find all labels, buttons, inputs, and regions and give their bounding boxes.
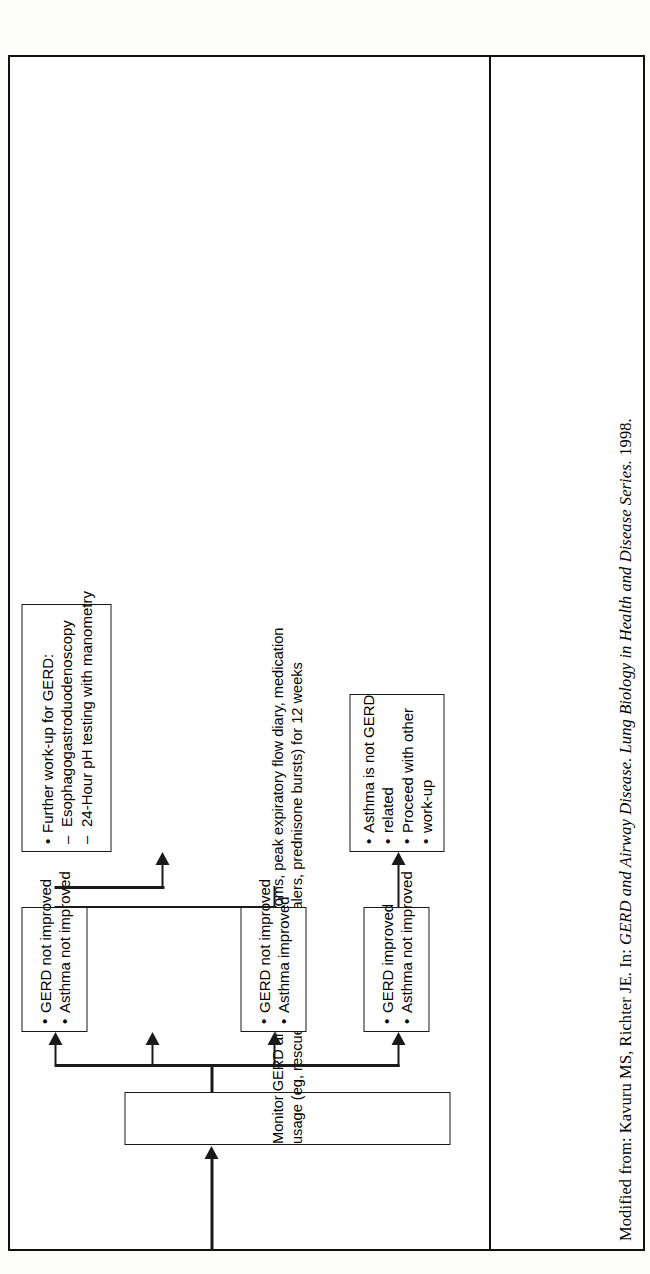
edge-merge-to-workup [161,863,164,889]
node-further-workup[interactable]: Further work-up for GERD: Esophagogastro… [21,604,111,852]
monitor-line-1: Monitor GERD and asthma by symptoms, pea… [268,1093,287,1144]
arrowhead-monitor-to-outcome2 [267,1032,281,1045]
edge-monitor-to-outcome4 [54,1043,57,1067]
node-monitor[interactable]: Monitor GERD and asthma by symptoms, pea… [124,1092,450,1145]
outcome2-line-1: GERD improved [377,901,396,1024]
edge-monitor-to-outcome1 [397,1043,400,1067]
outcome3-line-2: Asthma improved [273,901,292,1024]
edge-monitor-to-outcome2 [273,1043,276,1067]
caption-year: 1998. [616,418,635,460]
outcome4-line-2: Asthma not improved [54,901,73,1024]
caption-divider [489,55,491,1251]
outcome4-line-1: GERD not improved [35,901,54,1024]
flowchart-stage: Monitor GERD and asthma by symptoms, pea… [8,55,489,1251]
caption-source-title: GERD and Airway Disease. Lung Biology in… [616,460,635,945]
arrowhead-outcome2-to-notgerd [391,852,405,865]
node-asthma-not-gerd[interactable]: Asthma is not GERD related Proceed with … [349,694,444,852]
edge-monitor-trunk [55,1064,399,1067]
edge-monitor-to-outcome3 [151,1043,154,1067]
edge-outcome2-to-notgerd [397,863,400,907]
caption-prefix: Modified from: Kavuru MS, Richter JE. In… [616,945,635,1241]
notgerd-line-1: Asthma is not GERD [358,695,377,844]
notgerd-line-4: work-up [416,695,435,844]
notgerd-line-2: related [377,695,396,844]
monitor-line-2: usage (eg, rescue metered-dose inhalers,… [287,1093,306,1144]
arrowhead-monitor-to-outcome3 [145,1032,159,1045]
node-outcome-4[interactable]: GERD not improved Asthma not improved [21,907,87,1032]
edge-monitor-trunk-stub [210,1065,213,1092]
arrowhead-merge-to-workup [155,852,169,865]
arrowhead-monitor-to-outcome1 [391,1032,405,1045]
arrowhead-monitor-to-outcome4 [48,1032,62,1045]
outcome2-line-2: Asthma not improved [396,901,415,1024]
edge-merge-workup [54,886,164,889]
workup-line-1: Further work-up for GERD: [37,598,56,844]
node-outcome-3[interactable]: GERD not improved Asthma improved [240,907,306,1032]
arrowhead-external-to-monitor [204,1146,218,1159]
workup-line-3: 24-Hour pH testing with manometry [76,598,95,844]
edge-external-to-monitor [210,1157,213,1251]
workup-line-2: Esophagogastroduodenoscopy [56,598,75,844]
node-outcome-2[interactable]: GERD improved Asthma not improved [363,907,429,1032]
notgerd-line-3: Proceed with other [397,695,416,844]
flowchart-canvas: Monitor GERD and asthma by symptoms, pea… [8,55,489,1251]
edge-outcome3-stub [273,887,276,909]
edge-outcome4-down [54,906,276,909]
figure-caption: Modified from: Kavuru MS, Richter JE. In… [497,55,643,1251]
outcome3-line-1: GERD not improved [254,901,273,1024]
